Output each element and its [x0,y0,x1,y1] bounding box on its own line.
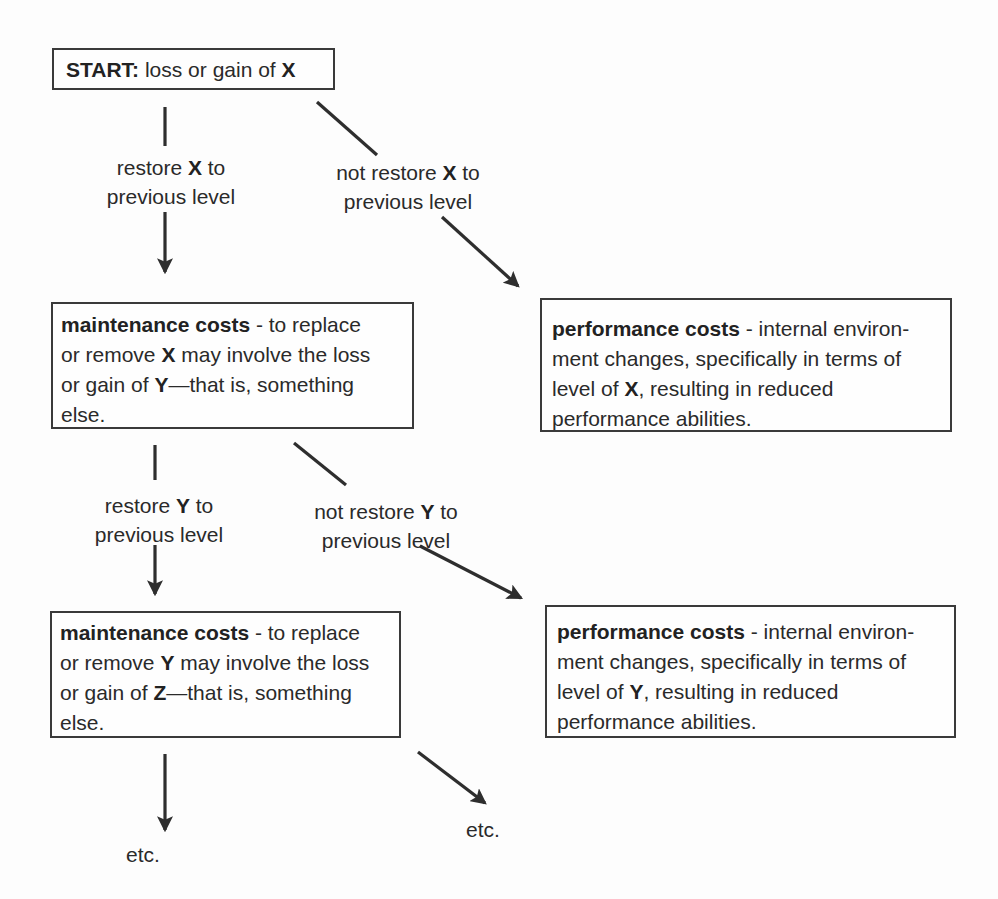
box-text: - to replace [249,621,360,644]
label-text: restore [117,156,188,179]
label-text: not restore [336,161,442,184]
box-var: Y [154,373,168,396]
label-var: Y [176,494,190,517]
box-var: Y [160,651,174,674]
box-var: Z [153,681,166,704]
box-text: may involve the loss [174,651,369,674]
box-text: performance abilities. [552,404,950,434]
box-text: or remove [60,651,160,674]
connector-arrows [0,0,998,899]
box-var: X [624,377,638,400]
branch-restore-x-label: restore X to previous level [96,153,246,211]
box-text: - to replace [250,313,361,336]
box-text: may involve the loss [175,343,370,366]
box-text: —that is, something [166,681,352,704]
label-var: X [188,156,202,179]
box-text: —that is, something [168,373,354,396]
performance-costs-box-1: performance costs - internal environ- me… [540,298,952,432]
box-text: , resulting in reduced [638,377,833,400]
box-title: performance costs [557,620,745,643]
start-label: START: [66,58,139,81]
label-text: to [434,500,457,523]
arrow-not-restore-y-top [294,443,346,485]
box-text: level of [557,680,629,703]
box-text: level of [552,377,624,400]
label-text: previous level [96,182,246,211]
branch-not-restore-y-label: not restore Y to previous level [300,497,472,555]
box-text: performance abilities. [557,707,954,737]
box-text: - internal environ- [745,620,914,643]
label-text: previous level [84,520,234,549]
box-text: ment changes, specifically in terms of [552,344,950,374]
label-text: not restore [314,500,420,523]
label-var: X [442,161,456,184]
label-text: previous level [322,187,494,216]
box-var: Y [629,680,643,703]
performance-costs-box-2: performance costs - internal environ- me… [545,605,956,738]
start-text: loss or gain of [139,58,281,81]
box-title: performance costs [552,317,740,340]
box-text: or remove [61,343,161,366]
label-text: restore [105,494,176,517]
box-text: , resulting in reduced [643,680,838,703]
box-text: ment changes, specifically in terms of [557,647,954,677]
box-var: X [161,343,175,366]
branch-not-restore-x-label: not restore X to previous level [322,158,494,216]
label-text: to [456,161,479,184]
branch-restore-y-label: restore Y to previous level [84,491,234,549]
label-var: Y [420,500,434,523]
box-text: or gain of [60,681,153,704]
label-text: previous level [300,526,472,555]
label-text: to [190,494,213,517]
arrow-not-restore-x-top [317,102,377,155]
maintenance-costs-box-1: maintenance costs - to replace or remove… [51,302,414,429]
label-text: to [202,156,225,179]
etc-right-label: etc. [466,815,500,844]
start-box: START: loss or gain of X [52,48,335,90]
box-title: maintenance costs [61,313,250,336]
box-text: - internal environ- [740,317,909,340]
etc-left-label: etc. [126,840,160,869]
box-text: else. [60,708,399,738]
box-title: maintenance costs [60,621,249,644]
box-text: else. [61,400,412,430]
start-var: X [282,58,296,81]
box-text: or gain of [61,373,154,396]
arrow-not-restore-x-bottom [442,217,518,286]
arrow-etc-right [418,752,485,803]
maintenance-costs-box-2: maintenance costs - to replace or remove… [50,611,401,738]
